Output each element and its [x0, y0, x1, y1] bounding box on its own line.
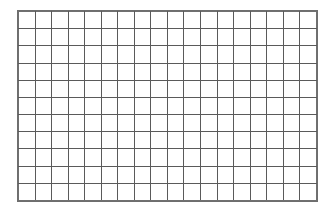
- grid-cell[interactable]: [118, 115, 135, 132]
- grid-cell[interactable]: [52, 63, 69, 80]
- grid-cell[interactable]: [35, 29, 52, 46]
- grid-cell[interactable]: [201, 166, 218, 183]
- grid-cell[interactable]: [283, 132, 300, 149]
- grid-cell[interactable]: [134, 46, 151, 63]
- grid-cell[interactable]: [101, 149, 118, 166]
- grid-cell[interactable]: [201, 149, 218, 166]
- grid-cell[interactable]: [151, 115, 168, 132]
- grid-cell[interactable]: [118, 166, 135, 183]
- grid-cell[interactable]: [250, 80, 267, 97]
- grid-cell[interactable]: [234, 115, 251, 132]
- grid-cell[interactable]: [68, 166, 85, 183]
- grid-cell[interactable]: [250, 63, 267, 80]
- grid-cell[interactable]: [217, 63, 234, 80]
- grid-cell[interactable]: [118, 80, 135, 97]
- grid-cell[interactable]: [234, 80, 251, 97]
- grid-cell[interactable]: [283, 80, 300, 97]
- grid-cell[interactable]: [68, 149, 85, 166]
- grid-cell[interactable]: [250, 166, 267, 183]
- grid-cell[interactable]: [283, 63, 300, 80]
- grid-cell[interactable]: [134, 149, 151, 166]
- grid-cell[interactable]: [35, 46, 52, 63]
- grid-cell[interactable]: [250, 12, 267, 29]
- grid-cell[interactable]: [118, 46, 135, 63]
- grid-cell[interactable]: [85, 29, 102, 46]
- grid-cell[interactable]: [217, 29, 234, 46]
- grid-cell[interactable]: [167, 115, 184, 132]
- grid-cell[interactable]: [267, 46, 284, 63]
- grid-cell[interactable]: [134, 166, 151, 183]
- grid-cell[interactable]: [283, 46, 300, 63]
- grid-cell[interactable]: [134, 183, 151, 200]
- grid-cell[interactable]: [85, 63, 102, 80]
- grid-cell[interactable]: [300, 115, 317, 132]
- grid-cell[interactable]: [35, 97, 52, 114]
- grid-cell[interactable]: [35, 12, 52, 29]
- grid-cell[interactable]: [184, 115, 201, 132]
- grid-cell[interactable]: [68, 29, 85, 46]
- grid-cell[interactable]: [167, 12, 184, 29]
- grid-cell[interactable]: [267, 63, 284, 80]
- grid-cell[interactable]: [101, 63, 118, 80]
- grid-cell[interactable]: [151, 149, 168, 166]
- grid-cell[interactable]: [217, 80, 234, 97]
- grid-cell[interactable]: [101, 97, 118, 114]
- grid-cell[interactable]: [19, 63, 36, 80]
- grid-cell[interactable]: [201, 12, 218, 29]
- grid-cell[interactable]: [101, 115, 118, 132]
- grid-cell[interactable]: [101, 12, 118, 29]
- grid-cell[interactable]: [134, 80, 151, 97]
- grid-cell[interactable]: [184, 149, 201, 166]
- grid-cell[interactable]: [234, 29, 251, 46]
- grid-cell[interactable]: [85, 132, 102, 149]
- grid-cell[interactable]: [118, 12, 135, 29]
- grid-cell[interactable]: [151, 12, 168, 29]
- grid-cell[interactable]: [167, 80, 184, 97]
- grid-cell[interactable]: [19, 183, 36, 200]
- grid-cell[interactable]: [267, 115, 284, 132]
- grid-cell[interactable]: [167, 166, 184, 183]
- grid-cell[interactable]: [300, 97, 317, 114]
- grid-cell[interactable]: [267, 97, 284, 114]
- grid-cell[interactable]: [85, 166, 102, 183]
- grid-cell[interactable]: [201, 115, 218, 132]
- grid-cell[interactable]: [52, 97, 69, 114]
- grid-cell[interactable]: [134, 115, 151, 132]
- grid-cell[interactable]: [52, 149, 69, 166]
- grid-cell[interactable]: [184, 29, 201, 46]
- grid-cell[interactable]: [250, 115, 267, 132]
- grid-cell[interactable]: [201, 183, 218, 200]
- grid-cell[interactable]: [167, 63, 184, 80]
- grid-cell[interactable]: [101, 183, 118, 200]
- grid-cell[interactable]: [68, 12, 85, 29]
- grid-cell[interactable]: [217, 166, 234, 183]
- grid-cell[interactable]: [68, 183, 85, 200]
- grid-cell[interactable]: [283, 115, 300, 132]
- grid-cell[interactable]: [267, 29, 284, 46]
- grid-cell[interactable]: [19, 12, 36, 29]
- grid-cell[interactable]: [134, 29, 151, 46]
- grid-cell[interactable]: [35, 149, 52, 166]
- grid-cell[interactable]: [151, 183, 168, 200]
- grid-cell[interactable]: [234, 149, 251, 166]
- grid-cell[interactable]: [19, 97, 36, 114]
- grid-cell[interactable]: [300, 46, 317, 63]
- grid-cell[interactable]: [85, 115, 102, 132]
- grid-cell[interactable]: [184, 97, 201, 114]
- grid-cell[interactable]: [300, 12, 317, 29]
- grid-cell[interactable]: [167, 46, 184, 63]
- grid-cell[interactable]: [35, 115, 52, 132]
- grid-cell[interactable]: [85, 149, 102, 166]
- grid-cell[interactable]: [267, 132, 284, 149]
- grid-cell[interactable]: [201, 63, 218, 80]
- grid-cell[interactable]: [250, 97, 267, 114]
- grid-cell[interactable]: [234, 132, 251, 149]
- grid-cell[interactable]: [151, 63, 168, 80]
- grid-cell[interactable]: [68, 132, 85, 149]
- grid-cell[interactable]: [283, 166, 300, 183]
- grid-cell[interactable]: [283, 149, 300, 166]
- grid-cell[interactable]: [217, 12, 234, 29]
- grid-cell[interactable]: [19, 29, 36, 46]
- grid-cell[interactable]: [234, 166, 251, 183]
- grid-cell[interactable]: [19, 149, 36, 166]
